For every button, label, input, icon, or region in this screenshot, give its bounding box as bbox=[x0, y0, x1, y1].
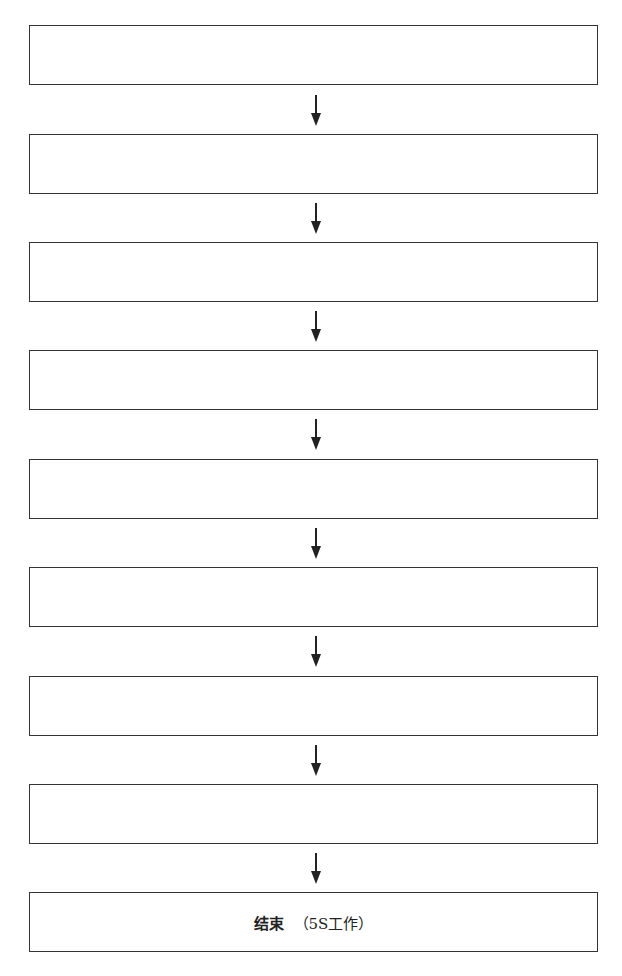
end-sublabel: （5S工作） bbox=[294, 912, 374, 933]
flow-step-7-box bbox=[29, 676, 598, 736]
arrow-down-icon bbox=[311, 311, 321, 341]
end-label: 结束 bbox=[254, 912, 284, 933]
arrow-down-icon bbox=[311, 419, 321, 449]
flow-step-3-box bbox=[29, 242, 598, 302]
flow-step-2-box bbox=[29, 134, 598, 194]
flow-step-4-box bbox=[29, 350, 598, 410]
flow-step-1-box bbox=[29, 25, 598, 85]
arrow-down-icon bbox=[311, 203, 321, 233]
arrow-down-icon bbox=[311, 636, 321, 666]
arrow-down-icon bbox=[311, 853, 321, 883]
arrow-down-icon bbox=[311, 95, 321, 125]
arrow-down-icon bbox=[311, 528, 321, 558]
flow-step-6-box bbox=[29, 567, 598, 627]
flow-step-5-box bbox=[29, 459, 598, 519]
flow-step-8-box bbox=[29, 784, 598, 844]
flow-end-box: 结束 （5S工作） bbox=[29, 892, 598, 952]
arrow-down-icon bbox=[311, 745, 321, 775]
